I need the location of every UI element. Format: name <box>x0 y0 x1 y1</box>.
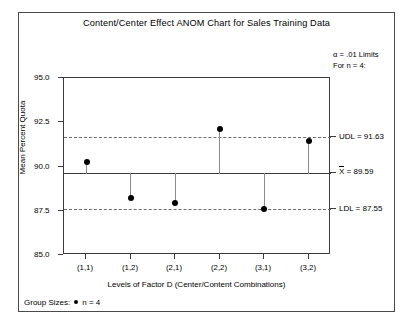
group-sizes-legend: Group Sizes: n = 4 <box>24 298 100 307</box>
sample-size-text: For n = 4: <box>333 61 379 72</box>
x-tick-label-1-1: (1,1) <box>77 263 93 272</box>
ldl-label: LDL = 87.55 <box>339 204 383 213</box>
stem-2-1 <box>175 173 176 203</box>
x-tick-label-2-2: (2,2) <box>211 263 227 272</box>
x-tick-mark-2-2 <box>219 254 220 259</box>
x-tick-mark-3-1 <box>263 254 264 259</box>
x-tick-label-3-2: (3,2) <box>300 263 316 272</box>
plot-area <box>63 77 330 254</box>
chart-title: Content/Center Effect ANOM Chart for Sal… <box>18 18 395 28</box>
data-point-1-1 <box>84 159 90 165</box>
center-line-label: X = 89.59 <box>339 167 374 176</box>
stem-3-2 <box>308 141 309 174</box>
y-tick-label-87-5: 87.5 <box>34 206 58 215</box>
anom-chart-figure: Content/Center Effect ANOM Chart for Sal… <box>0 0 412 324</box>
x-axis-title: Levels of Factor D (Center/Content Combi… <box>63 280 330 289</box>
y-tick-label-95: 95.0 <box>34 73 58 82</box>
x-tick-label-1-2: (1,2) <box>122 263 138 272</box>
data-point-1-2 <box>128 195 134 201</box>
alpha-limits-annotation: α = .01 Limits For n = 4: <box>333 50 379 71</box>
x-tick-label-2-1: (2,1) <box>166 263 182 272</box>
x-tick-mark-3-2 <box>308 254 309 259</box>
y-tick-label-85: 85.0 <box>34 250 58 259</box>
lower-decision-limit-line <box>64 209 331 210</box>
stem-3-1 <box>264 173 265 209</box>
y-tick-mark-85 <box>58 254 63 255</box>
x-tick-mark-2-1 <box>174 254 175 259</box>
x-tick-label-3-1: (3,1) <box>255 263 271 272</box>
group-size-value: n = 4 <box>82 298 100 307</box>
data-point-2-1 <box>172 200 178 206</box>
x-tick-mark-1-1 <box>85 254 86 259</box>
center-line <box>64 173 331 174</box>
y-axis-title: Mean Percent Quota <box>18 78 27 198</box>
y-tick-label-92-5: 92.5 <box>34 117 58 126</box>
center-line-value: = 89.59 <box>347 167 374 176</box>
x-tick-mark-1-2 <box>130 254 131 259</box>
data-point-3-2 <box>306 138 312 144</box>
y-tick-label-90: 90.0 <box>34 162 58 171</box>
group-sizes-label: Group Sizes: <box>24 298 70 307</box>
legend-marker-icon <box>74 300 78 304</box>
x-bar-symbol: X <box>339 167 344 176</box>
ldl-leader-tick <box>330 208 336 209</box>
center-line-leader-tick <box>330 172 336 173</box>
data-point-3-1 <box>261 206 267 212</box>
upper-decision-limit-line <box>64 137 331 138</box>
data-point-2-2 <box>217 126 223 132</box>
udl-label: UDL = 91.63 <box>339 132 384 141</box>
alpha-level-text: α = .01 Limits <box>333 50 379 61</box>
udl-leader-tick <box>330 136 336 137</box>
stem-2-2 <box>219 129 220 174</box>
